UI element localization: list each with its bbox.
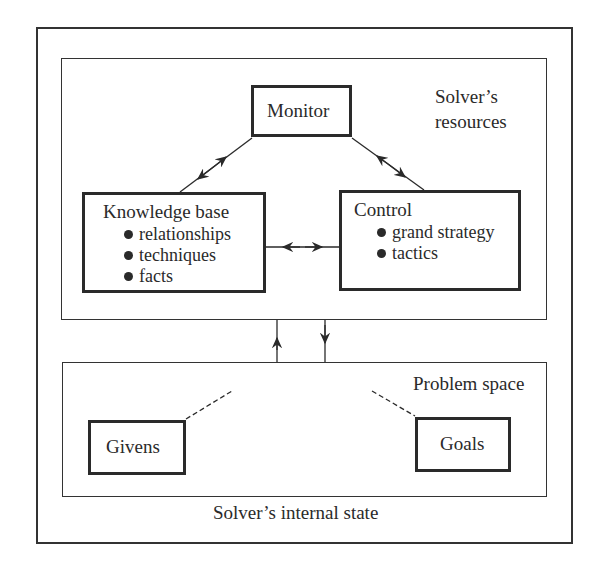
connector-layer <box>0 0 597 570</box>
goals-dashed-line <box>372 391 415 416</box>
givens-dashed-line <box>186 391 232 419</box>
